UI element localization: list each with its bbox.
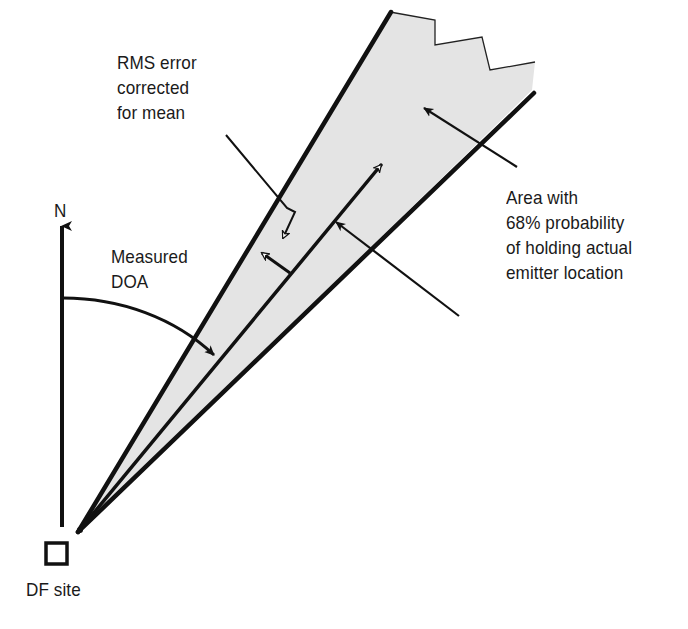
area-leader-lower xyxy=(336,222,459,316)
measured-doa-line2: DOA xyxy=(111,269,188,294)
measured-doa-line xyxy=(78,165,381,532)
rms-error-label: RMS error corrected for mean xyxy=(117,50,197,125)
rms-error-line2: corrected xyxy=(117,75,197,100)
area-label: Area with 68% probability of holding act… xyxy=(506,185,632,285)
df-site-label-text: DF site xyxy=(26,577,81,602)
area-line4: emitter location xyxy=(506,260,632,285)
north-label-text: N xyxy=(54,198,66,223)
area-line1: Area with xyxy=(506,185,632,210)
measured-doa-line1: Measured xyxy=(111,244,188,269)
area-line3: of holding actual xyxy=(506,235,632,260)
area-line2: 68% probability xyxy=(506,210,632,235)
measured-doa-label: Measured DOA xyxy=(111,244,188,294)
wedge-apex xyxy=(77,527,83,533)
doa-diagram xyxy=(0,0,688,629)
rms-error-line3: for mean xyxy=(117,100,197,125)
df-site-label: DF site xyxy=(26,577,81,602)
north-label: N xyxy=(54,198,66,223)
df-site-square xyxy=(46,543,67,564)
rms-error-line1: RMS error xyxy=(117,50,197,75)
